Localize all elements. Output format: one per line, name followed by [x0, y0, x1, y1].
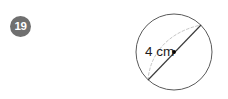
- circle-diagram-figure: 4 cm: [128, 6, 224, 99]
- worksheet-canvas: 19 4 cm: [0, 0, 228, 99]
- measurement-label: 4 cm: [145, 44, 174, 59]
- question-number-badge: 19: [10, 16, 31, 37]
